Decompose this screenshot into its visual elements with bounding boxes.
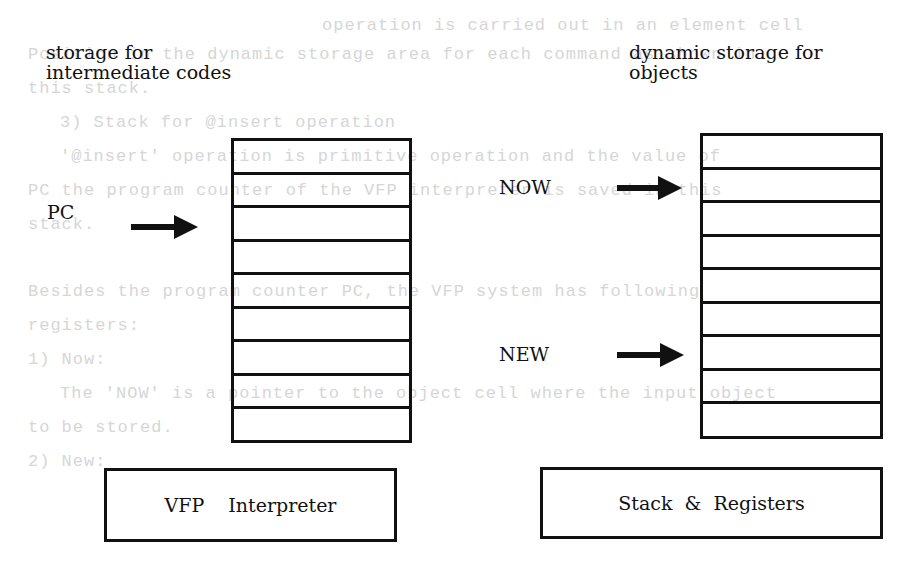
stack-cell	[703, 170, 880, 204]
bleed-line: 3) Stack for @insert operation	[60, 113, 396, 132]
stack-cell	[234, 342, 409, 376]
new-arrow-icon	[617, 343, 684, 367]
left-storage-title: storage for intermediate codes	[46, 42, 231, 82]
stack-cell	[703, 404, 880, 436]
stack-cell	[234, 376, 409, 410]
stack-cell	[234, 309, 409, 343]
dynamic-object-stack	[700, 133, 883, 439]
stack-cell	[703, 237, 880, 271]
stack-registers-box: Stack & Registers	[540, 467, 883, 539]
bleed-line: registers:	[28, 316, 140, 335]
pc-label: PC	[47, 201, 74, 223]
stack-cell	[234, 275, 409, 309]
right-title-line: dynamic storage for	[629, 42, 822, 62]
stack-cell	[234, 409, 409, 440]
left-title-line: storage for	[46, 42, 231, 62]
pc-arrow-icon	[131, 215, 198, 239]
left-title-line: intermediate codes	[46, 62, 231, 82]
stack-cell	[234, 208, 409, 242]
stack-cell	[703, 203, 880, 237]
stack-cell	[234, 141, 409, 175]
stack-cell	[703, 304, 880, 338]
stack-cell	[703, 371, 880, 405]
bleed-line: to be stored.	[28, 418, 174, 437]
intermediate-code-stack	[231, 138, 412, 443]
stack-cell	[703, 270, 880, 304]
vfp-interpreter-box: VFP Interpreter	[104, 468, 397, 542]
stack-registers-label: Stack & Registers	[618, 492, 804, 514]
vfp-interpreter-label: VFP Interpreter	[165, 494, 337, 516]
right-storage-title: dynamic storage for objects	[629, 42, 822, 82]
now-arrow-icon	[617, 176, 683, 200]
stack-cell	[703, 337, 880, 371]
stack-cell	[703, 136, 880, 170]
now-label: NOW	[499, 176, 551, 198]
bleed-line: 1) Now:	[28, 350, 106, 369]
bleed-line: 2) New:	[28, 452, 106, 471]
stack-cell	[234, 175, 409, 209]
right-title-line: objects	[629, 62, 822, 82]
new-label: NEW	[499, 343, 549, 365]
stack-cell	[234, 242, 409, 276]
bleed-line: The 'NOW' is a pointer to the object cel…	[60, 384, 777, 403]
bleed-line: operation is carried out in an element c…	[322, 16, 804, 35]
